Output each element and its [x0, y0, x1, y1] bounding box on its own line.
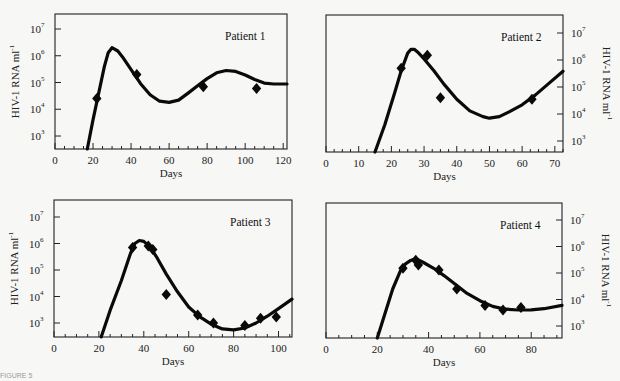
x-tick-label: 80: [526, 343, 538, 355]
x-tick-label: 10: [353, 157, 365, 169]
x-tick-label: 100: [237, 154, 254, 166]
y-tick-label: 105: [29, 262, 44, 276]
x-tick-label: 40: [126, 154, 138, 166]
figure-canvas: 020406080100120Days103104105106107HIV-1 …: [0, 0, 620, 381]
y-tick-label: 107: [570, 212, 585, 226]
y-tick-label: 103: [571, 133, 586, 147]
chart-patient-4: 020406080Days103104105106107HIV-1 RNA ml…: [323, 203, 613, 368]
y-tick-label: 103: [29, 315, 44, 329]
data-point-diamond: [498, 305, 507, 316]
data-point-diamond: [162, 289, 171, 300]
x-tick-label: 120: [275, 154, 292, 166]
x-axis-label: Days: [433, 356, 456, 368]
y-tick-label: 106: [29, 236, 44, 250]
chart-patient-1: 020406080100120Days103104105106107HIV-1 …: [8, 14, 292, 179]
y-tick-label: 103: [570, 318, 585, 332]
x-tick-label: 0: [51, 342, 57, 354]
x-tick-label: 40: [423, 343, 435, 355]
x-tick-label: 100: [270, 342, 287, 354]
data-point-diamond: [452, 283, 461, 294]
y-tick-label: 103: [30, 128, 45, 142]
x-tick-label: 0: [323, 157, 329, 169]
y-axis-label: HIV-1 RNA ml-1: [8, 44, 21, 118]
data-point-diamond: [92, 93, 101, 104]
x-tick-label: 0: [52, 154, 58, 166]
y-tick-label: 105: [571, 79, 586, 93]
y-axis-label: HIV-1 RNA ml-1: [7, 231, 20, 305]
x-tick-label: 20: [386, 157, 398, 169]
chart-patient-3: 020406080100Days103104105106107HIV-1 RNA…: [7, 200, 292, 367]
x-tick-label: 20: [372, 343, 384, 355]
x-tick-label: 70: [549, 157, 561, 169]
y-tick-label: 105: [30, 75, 45, 89]
y-tick-label: 107: [30, 21, 45, 35]
x-tick-label: 80: [202, 154, 214, 166]
y-axis-label: HIV-1 RNA ml-1: [600, 234, 613, 308]
y-tick-label: 107: [571, 25, 586, 39]
panel-title: Patient 1: [225, 30, 266, 42]
x-tick-label: 40: [451, 157, 463, 169]
y-tick-label: 105: [570, 265, 585, 279]
y-tick-label: 104: [570, 292, 585, 306]
x-tick-label: 40: [138, 342, 150, 354]
x-tick-label: 20: [93, 342, 105, 354]
x-tick-label: 60: [164, 154, 176, 166]
x-tick-label: 20: [88, 154, 100, 166]
panel-title: Patient 3: [230, 216, 271, 228]
x-tick-label: 0: [323, 343, 329, 355]
x-tick-label: 60: [183, 342, 195, 354]
y-axis-label: HIV-1 RNA ml-1: [601, 47, 614, 121]
data-point-diamond: [436, 92, 445, 103]
y-tick-label: 106: [570, 239, 585, 253]
x-tick-label: 50: [484, 157, 496, 169]
x-tick-label: 60: [474, 343, 486, 355]
x-tick-label: 80: [228, 342, 240, 354]
y-tick-label: 104: [30, 101, 45, 115]
data-point-diamond: [252, 83, 261, 94]
x-axis-label: Days: [160, 167, 183, 179]
figure-caption-fragment: FIGURE 5: [0, 372, 32, 379]
model-fit-curve: [101, 241, 292, 337]
y-tick-label: 106: [30, 48, 45, 62]
chart-patient-2: 010203040506070Days103104105106107HIV-1 …: [323, 15, 614, 182]
x-axis-label: Days: [162, 355, 185, 367]
x-axis-label: Days: [433, 170, 456, 182]
y-tick-label: 106: [571, 52, 586, 66]
x-tick-label: 30: [419, 157, 431, 169]
model-fit-curve: [87, 48, 287, 149]
y-tick-label: 104: [571, 106, 586, 120]
panel-title: Patient 2: [501, 31, 542, 43]
y-tick-label: 104: [29, 289, 44, 303]
panel-title: Patient 4: [500, 219, 541, 231]
y-tick-label: 107: [29, 209, 44, 223]
x-tick-label: 60: [517, 157, 529, 169]
